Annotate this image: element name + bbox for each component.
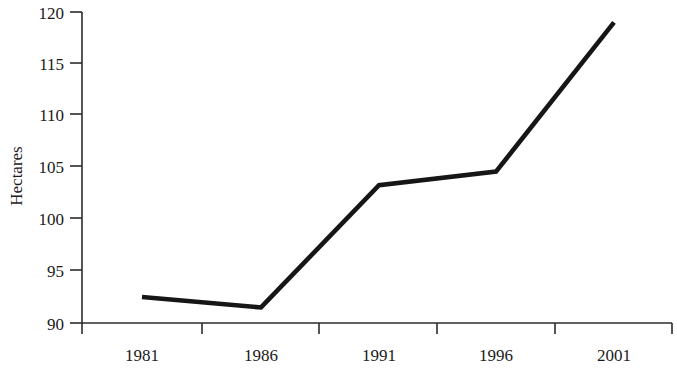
y-tick-label-90: 90 [47, 315, 64, 334]
line-chart: 120 115 110 105 100 95 90 1981 1986 1991… [0, 0, 677, 376]
x-tick-label-1991: 1991 [362, 346, 396, 365]
series-line-hectares [142, 22, 614, 307]
y-tick-label-105: 105 [39, 158, 65, 177]
y-tick-label-95: 95 [47, 262, 64, 281]
y-tick-label-120: 120 [39, 4, 65, 23]
y-tick-label-115: 115 [39, 55, 64, 74]
y-tick-label-100: 100 [39, 210, 65, 229]
chart-plot-area: 120 115 110 105 100 95 90 1981 1986 1991… [0, 0, 677, 376]
x-tick-label-1996: 1996 [479, 346, 513, 365]
y-axis-title: Hectares [7, 146, 26, 205]
y-tick-label-110: 110 [39, 106, 64, 125]
x-tick-label-1986: 1986 [244, 346, 278, 365]
x-tick-label-2001: 2001 [597, 346, 631, 365]
x-tick-label-1981: 1981 [125, 346, 159, 365]
